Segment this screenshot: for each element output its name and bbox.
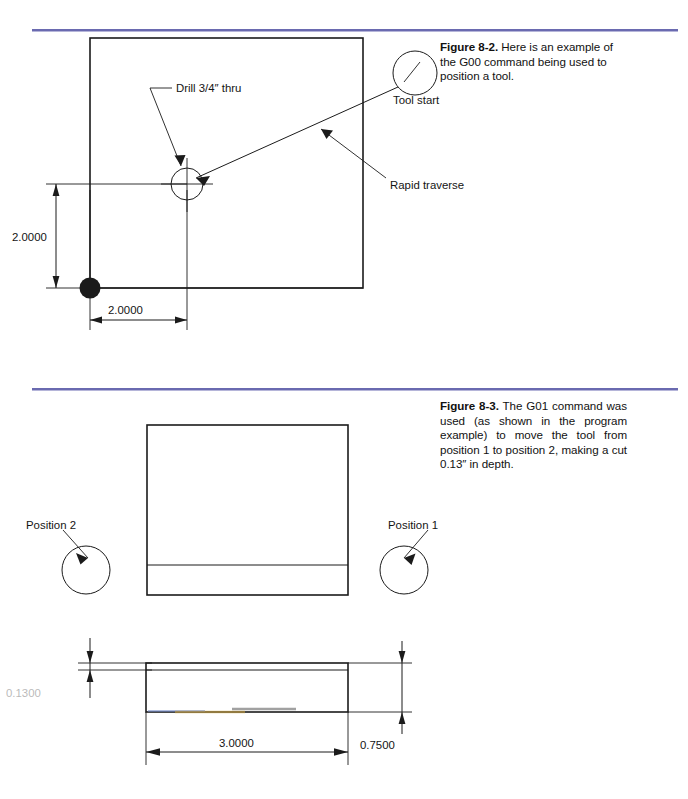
arrowhead-depth-up (87, 670, 94, 682)
arrowhead-length-left (146, 748, 160, 756)
dimension-depth-0-1300: 0.1300 (6, 687, 41, 699)
arrowhead-thickness-bottom (399, 712, 406, 724)
arrowhead-length-right (334, 748, 348, 756)
arrowhead-position-1 (404, 554, 416, 566)
arrowhead-depth-down (87, 651, 94, 663)
document-page: 2.0000 2.0000 Drill 3/4″ thru Tool start… (0, 0, 688, 799)
label-position-1: Position 1 (388, 519, 438, 531)
arrowhead-position-2 (76, 553, 88, 565)
position-1-leader-line (404, 530, 428, 558)
dimension-thickness-0-7500: 0.7500 (360, 739, 395, 751)
figure-8-3-caption: Figure 8-3. The G01 command was used (as… (440, 399, 627, 472)
dimension-length-3-0000: 3.0000 (219, 737, 254, 749)
figure-8-3-number: Figure 8-3. (440, 399, 499, 412)
position-2-circle (62, 546, 110, 594)
position-2-leader-line (63, 530, 88, 558)
position-1-circle (380, 546, 428, 594)
arrowhead-thickness-top (399, 651, 406, 663)
label-position-2: Position 2 (26, 519, 76, 531)
workpiece-top-view-8-3 (147, 425, 348, 595)
